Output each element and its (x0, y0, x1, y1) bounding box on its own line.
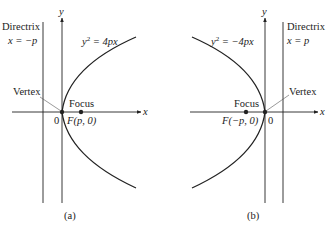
origin-label: 0 (54, 115, 59, 126)
vertex-pointer (266, 95, 289, 111)
focus-point (244, 110, 248, 114)
y-axis-label: y (58, 6, 64, 17)
caption-b: (b) (247, 210, 260, 222)
directrix-title: Directrix (287, 21, 326, 32)
x-axis-label: x (142, 106, 148, 117)
parabola-curve (192, 37, 265, 188)
focus-point (79, 110, 83, 114)
directrix-equation: x = −p (7, 35, 37, 46)
parabola-curve (62, 37, 136, 188)
origin-label: 0 (268, 115, 273, 126)
focus-label: Focus (234, 98, 259, 109)
equation-label: y2 = 4px (81, 35, 118, 47)
focus-coordinate: F(−p, 0) (221, 115, 259, 127)
directrix-title: Directrix (2, 21, 41, 32)
vertex-label: Vertex (13, 86, 41, 97)
x-axis-label: x (319, 106, 325, 117)
equation-label: y2 = −4px (210, 35, 254, 47)
focus-label: Focus (69, 98, 94, 109)
y-axis-label: y (261, 6, 267, 17)
directrix-equation: x = p (286, 35, 309, 46)
parabola-diagram: x y Directrix x = −p y2 = 4px Vertex Foc… (0, 0, 332, 229)
vertex-label: Vertex (289, 86, 317, 97)
caption-a: (a) (64, 210, 76, 222)
panel-b: x y Directrix x = p y2 = −4px Vertex Foc… (190, 6, 326, 222)
panel-a: x y Directrix x = −p y2 = 4px Vertex Foc… (2, 6, 148, 222)
focus-coordinate: F(p, 0) (66, 115, 97, 127)
